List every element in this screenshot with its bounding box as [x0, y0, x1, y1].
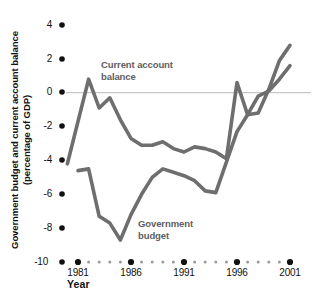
ytick-label-neg10: -10 [24, 256, 48, 267]
series-label-government-budget-line2: budget [138, 230, 193, 242]
x-axis-title: Year [67, 278, 90, 290]
ytick-label-0: 0 [28, 86, 52, 97]
ytick-label-neg4: -4 [28, 154, 52, 165]
chart-container: 4 2 0 -2 -4 -6 -8 -10 1981 1986 1991 199… [0, 0, 321, 302]
y-axis-tick-dots [59, 22, 65, 265]
series-label-government-budget-line1: Government [138, 218, 193, 230]
xtick-label-2001: 2001 [273, 267, 307, 278]
series-label-current-account-balance: Current account balance [101, 59, 173, 82]
xtick-label-1986: 1986 [114, 267, 148, 278]
chart-plot-area [0, 0, 321, 302]
ytick-label-neg8: -8 [28, 222, 52, 233]
ytick-label-neg6: -6 [28, 188, 52, 199]
ytick-label-4: 4 [28, 19, 52, 30]
series-label-current-account-line1: Current account [101, 59, 173, 71]
ytick-label-neg2: -2 [28, 120, 52, 131]
xtick-label-1991: 1991 [167, 267, 201, 278]
xtick-label-1996: 1996 [220, 267, 254, 278]
xtick-label-1981: 1981 [61, 267, 95, 278]
ytick-label-2: 2 [28, 53, 52, 64]
series-label-current-account-line2: balance [101, 71, 173, 83]
x-axis-major-tick-dots [75, 259, 293, 265]
series-label-government-budget: Government budget [138, 218, 193, 241]
